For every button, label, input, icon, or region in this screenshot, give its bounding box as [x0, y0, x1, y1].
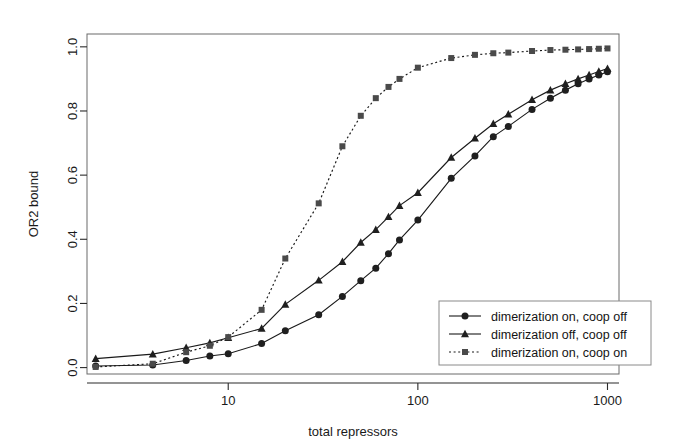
- legend-label: dimerization on, coop off: [491, 310, 627, 324]
- data-point-circle: [490, 133, 497, 140]
- data-point-circle: [258, 340, 265, 347]
- data-point-triangle: [504, 110, 512, 117]
- data-point-square: [529, 48, 535, 54]
- data-point-square: [604, 45, 610, 51]
- data-point-triangle: [281, 300, 289, 307]
- chart-legend[interactable]: dimerization on, coop offdimerization of…: [439, 301, 651, 365]
- data-point-square: [339, 143, 345, 149]
- data-point-circle: [183, 357, 190, 364]
- data-point-square: [596, 46, 602, 52]
- data-point-triangle: [603, 64, 611, 71]
- data-point-square: [448, 55, 454, 61]
- data-point-circle: [547, 95, 554, 102]
- data-point-square: [575, 46, 581, 52]
- data-point-circle: [339, 293, 346, 300]
- x-tick-label: 100: [407, 393, 429, 408]
- data-point-circle: [385, 250, 392, 257]
- y-tick-label: 0.4: [66, 230, 81, 248]
- data-point-circle: [357, 277, 364, 284]
- data-point-square: [490, 50, 496, 56]
- y-tick-label: 1.0: [66, 38, 81, 56]
- data-point-circle: [315, 311, 322, 318]
- legend-label: dimerization on, coop on: [491, 346, 627, 360]
- data-point-square: [259, 307, 265, 313]
- data-point-square: [505, 50, 511, 56]
- x-axis-title: total repressors: [308, 424, 398, 439]
- data-point-circle: [206, 353, 213, 360]
- data-point-circle: [505, 123, 512, 130]
- x-tick-label: 10: [221, 393, 235, 408]
- data-point-circle: [414, 217, 421, 224]
- data-point-square: [316, 200, 322, 206]
- data-point-square: [562, 47, 568, 53]
- data-point-triangle: [489, 120, 497, 127]
- y-axis-title: OR2 bound: [26, 171, 41, 238]
- x-axis-ticks: 101001000: [87, 383, 622, 408]
- y-axis-ticks: 0.00.20.40.60.81.0: [66, 38, 88, 377]
- data-point-circle: [372, 265, 379, 272]
- data-point-triangle: [528, 96, 536, 103]
- data-point-circle: [282, 327, 289, 334]
- data-point-square: [150, 361, 156, 367]
- data-point-square: [282, 256, 288, 262]
- data-point-triangle: [315, 276, 323, 283]
- y-tick-label: 0.0: [66, 359, 81, 377]
- data-point-triangle: [395, 201, 403, 208]
- data-point-circle: [225, 350, 232, 357]
- data-point-circle: [396, 236, 403, 243]
- data-point-triangle: [447, 153, 455, 160]
- y-tick-label: 0.6: [66, 166, 81, 184]
- data-point-square: [472, 52, 478, 58]
- data-point-square: [462, 349, 468, 355]
- y-tick-label: 0.8: [66, 102, 81, 120]
- data-point-square: [207, 343, 213, 349]
- data-point-circle: [562, 87, 569, 94]
- data-point-square: [225, 334, 231, 340]
- data-point-square: [547, 47, 553, 53]
- data-point-circle: [462, 313, 469, 320]
- chart-canvas: 0.00.20.40.60.81.0 101001000 total repre…: [0, 0, 693, 446]
- data-point-square: [586, 46, 592, 52]
- legend-label: dimerization off, coop off: [491, 328, 627, 342]
- y-tick-label: 0.2: [66, 294, 81, 312]
- data-point-triangle: [546, 86, 554, 93]
- data-point-triangle: [471, 134, 479, 141]
- x-tick-label: 1000: [593, 393, 622, 408]
- data-point-square: [93, 364, 99, 370]
- data-point-square: [385, 84, 391, 90]
- data-point-square: [396, 76, 402, 82]
- chart-figure: 0.00.20.40.60.81.0 101001000 total repre…: [0, 0, 693, 446]
- data-point-square: [415, 65, 421, 71]
- data-point-circle: [471, 152, 478, 159]
- data-point-square: [183, 349, 189, 355]
- data-point-circle: [448, 175, 455, 182]
- data-point-square: [358, 113, 364, 119]
- data-point-circle: [529, 106, 536, 113]
- data-point-square: [373, 95, 379, 101]
